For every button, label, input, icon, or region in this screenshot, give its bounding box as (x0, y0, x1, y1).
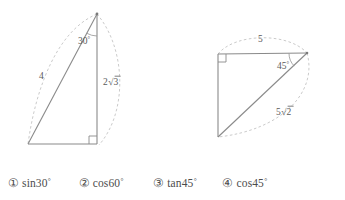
figure-triangle-45-45-90: 45° 5 5√2 (218, 34, 309, 137)
option-4-marker: ④ (222, 176, 233, 190)
option-4-degree-symbol: ° (264, 177, 267, 186)
option-3-degree-symbol: ° (194, 177, 197, 186)
triangle2-right-angle-marker (218, 54, 226, 62)
triangle2-hypotenuse-label: 5√2 (276, 106, 294, 117)
option-4-expression: cos45 (237, 177, 264, 189)
triangle2-angle-arc (289, 53, 294, 66)
triangle2-top-side-label: 5 (258, 34, 263, 44)
triangle1-apex-vertex (96, 13, 99, 16)
option-1-expression: sin30 (22, 177, 47, 189)
option-1-marker: ① (8, 176, 19, 190)
option-1-degree-symbol: ° (48, 177, 51, 186)
option-3-marker: ③ (153, 176, 164, 190)
triangle2-top-right-vertex (306, 52, 309, 55)
triangle2-angle-label: 45° (277, 60, 290, 72)
triangle2-top-side (218, 53, 307, 54)
option-2[interactable]: ② cos60 ° (79, 176, 124, 190)
option-2-degree-symbol: ° (120, 177, 123, 186)
option-4[interactable]: ④ cos45 ° (222, 176, 267, 190)
triangle1-vertical-leg-label: 2√3 (103, 76, 121, 87)
triangle1-right-angle-marker (89, 136, 97, 144)
svg-text:5√2: 5√2 (276, 107, 291, 117)
figure-triangle-30-60-90: 30° 4 2√3 (28, 13, 121, 145)
option-2-marker: ② (79, 176, 90, 190)
option-1[interactable]: ① sin30 ° (8, 176, 51, 190)
geometry-figures-area: 30° 4 2√3 (0, 0, 345, 165)
triangle1-angle-label: 30° (78, 35, 91, 47)
option-3-expression: tan45 (167, 177, 193, 189)
option-3[interactable]: ③ tan45 ° (153, 176, 196, 190)
triangle1-hypotenuse-label: 4 (39, 71, 44, 81)
option-2-expression: cos60 (93, 177, 120, 189)
answer-options-row: ① sin30 ° ② cos60 ° ③ tan45 ° ④ cos45 ° (0, 166, 345, 200)
svg-text:2√3: 2√3 (103, 77, 118, 87)
